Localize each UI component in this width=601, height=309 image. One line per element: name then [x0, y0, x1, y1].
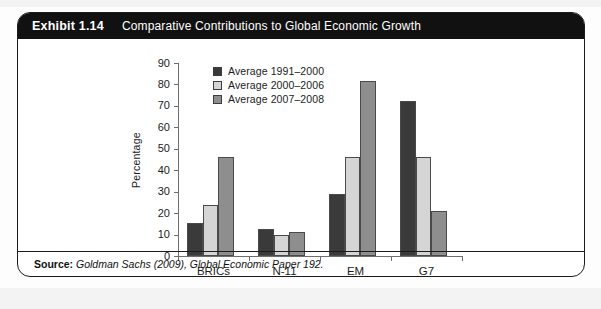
legend-swatch-icon: [213, 95, 222, 104]
x-axis-tick: [391, 256, 392, 261]
y-axis-tick: [174, 213, 179, 214]
bar: [274, 235, 290, 256]
x-axis-category-label: EM: [320, 265, 391, 277]
y-axis-tick: [174, 106, 179, 107]
y-axis-tick-label: 80: [144, 79, 170, 90]
bar: [431, 211, 447, 256]
legend-swatch-icon: [213, 81, 222, 90]
y-axis-tick: [174, 63, 179, 64]
legend-item: Average 2000–2006: [213, 79, 324, 92]
y-axis-tick: [174, 149, 179, 150]
chart-legend: Average 1991–2000Average 2000–2006Averag…: [213, 65, 324, 107]
y-axis-tick-label: 10: [144, 229, 170, 240]
chart-plot-area: 0102030405060708090PercentageBRICsN-11EM…: [18, 39, 585, 252]
y-axis-title: Percentage: [130, 132, 142, 188]
source-divider: [18, 251, 585, 252]
exhibit-title: Comparative Contributions to Global Econ…: [122, 19, 421, 33]
y-axis-tick: [174, 84, 179, 85]
exhibit-title-bar: Exhibit 1.14 Comparative Contributions t…: [18, 13, 585, 39]
y-axis-tick-label: 60: [144, 122, 170, 133]
y-axis-tick: [174, 127, 179, 128]
y-axis-tick-label: 50: [144, 143, 170, 154]
x-axis-tick: [462, 256, 463, 261]
legend-label: Average 1991–2000: [228, 65, 324, 77]
source-prefix: Source:: [34, 258, 73, 270]
exhibit-card: Exhibit 1.14 Comparative Contributions t…: [17, 12, 585, 277]
legend-item: Average 1991–2000: [213, 65, 324, 78]
bar: [218, 157, 234, 256]
source-note: Source: Goldman Sachs (2009), Global Eco…: [34, 258, 323, 270]
bar: [289, 232, 305, 256]
bar: [400, 101, 416, 256]
bar: [329, 194, 345, 256]
screenshot-page: Exhibit 1.14 Comparative Contributions t…: [0, 0, 601, 309]
y-axis-tick-label: 40: [144, 165, 170, 176]
x-axis-category-label: G7: [391, 265, 462, 277]
legend-item: Average 2007–2008: [213, 93, 324, 106]
y-axis-tick-label: 30: [144, 186, 170, 197]
legend-swatch-icon: [213, 67, 222, 76]
bar: [345, 157, 361, 256]
y-axis-tick-label: 20: [144, 208, 170, 219]
legend-label: Average 2000–2006: [228, 79, 324, 91]
legend-label: Average 2007–2008: [228, 93, 324, 105]
y-axis-tick-label: 70: [144, 100, 170, 111]
exhibit-number: Exhibit 1.14: [32, 19, 104, 33]
y-axis-line: [178, 63, 179, 257]
y-axis-tick: [174, 170, 179, 171]
scan-artifact-bottom: [0, 288, 601, 309]
scan-artifact-top: [0, 0, 601, 7]
bar: [203, 205, 219, 256]
y-axis-tick: [174, 235, 179, 236]
bar: [360, 81, 376, 256]
bar: [416, 157, 432, 256]
y-axis-tick-label: 90: [144, 58, 170, 69]
source-text: Goldman Sachs (2009), Global Economic Pa…: [76, 258, 323, 270]
y-axis-tick: [174, 192, 179, 193]
